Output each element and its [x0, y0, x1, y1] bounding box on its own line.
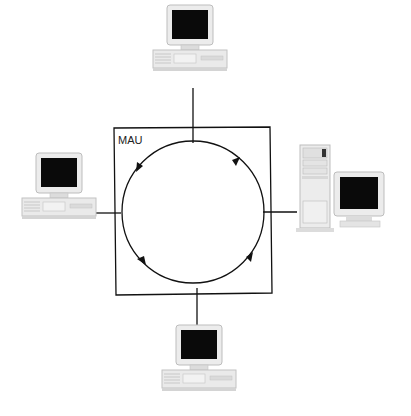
computer-bottom: [162, 325, 236, 391]
computer-left: [22, 153, 96, 219]
mau-label: MAU: [118, 134, 142, 146]
token-ring-diagram: [0, 0, 411, 416]
server-right: [296, 145, 384, 232]
mau-box: [114, 127, 272, 295]
ring-arrow-icon: [136, 157, 253, 265]
computer-top: [153, 5, 227, 71]
